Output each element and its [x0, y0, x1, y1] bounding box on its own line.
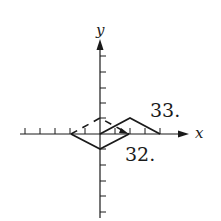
- y-axis-arrow-icon: [97, 39, 104, 50]
- x-axis-arrow-icon: [178, 131, 189, 138]
- figure-33-label: 33.: [150, 99, 180, 121]
- x-axis-label: x: [195, 124, 204, 142]
- y-axis-label: y: [95, 21, 105, 39]
- x-ticks: [25, 128, 160, 134]
- coordinate-diagram: y x 33. 32.: [0, 0, 221, 221]
- figure-32-label: 32.: [125, 143, 155, 165]
